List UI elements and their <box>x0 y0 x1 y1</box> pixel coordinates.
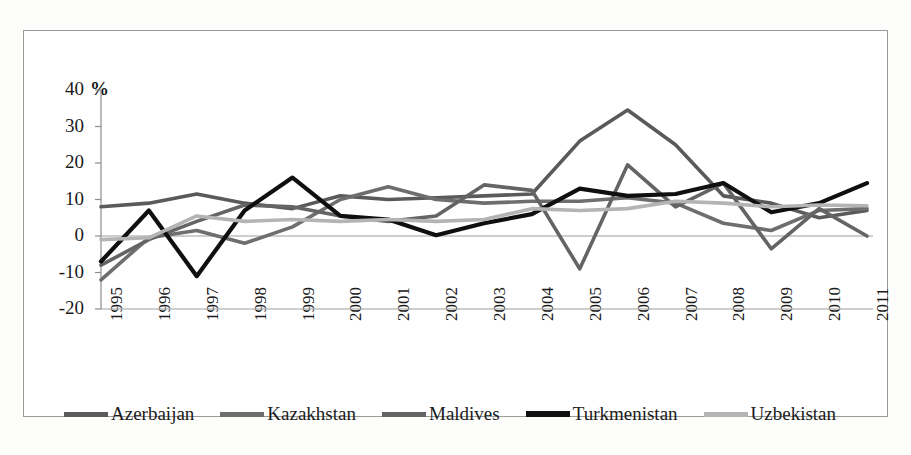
legend-label: Turkmenistan <box>573 403 678 425</box>
legend-item-azerbaijan[interactable]: Azerbaijan <box>64 403 194 425</box>
legend-item-kazakhstan[interactable]: Kazakhstan <box>220 403 356 425</box>
legend-swatch-icon <box>382 412 426 417</box>
legend-swatch-icon <box>220 412 264 417</box>
legend-swatch-icon <box>64 412 108 417</box>
line-plot-area <box>24 31 889 418</box>
chart-legend: AzerbaijanKazakhstanMaldivesTurkmenistan… <box>64 403 894 425</box>
legend-label: Azerbaijan <box>111 403 194 425</box>
legend-label: Uzbekistan <box>751 403 836 425</box>
chart-frame: % 403020100-10-20 1995199619971998199920… <box>23 30 888 417</box>
legend-swatch-icon <box>704 412 748 417</box>
legend-item-uzbekistan[interactable]: Uzbekistan <box>704 403 836 425</box>
legend-label: Kazakhstan <box>267 403 356 425</box>
legend-item-turkmenistan[interactable]: Turkmenistan <box>526 403 678 425</box>
legend-label: Maldives <box>429 403 500 425</box>
chart-figure: % 403020100-10-20 1995199619971998199920… <box>0 0 911 455</box>
legend-item-maldives[interactable]: Maldives <box>382 403 500 425</box>
legend-swatch-icon <box>526 411 570 417</box>
